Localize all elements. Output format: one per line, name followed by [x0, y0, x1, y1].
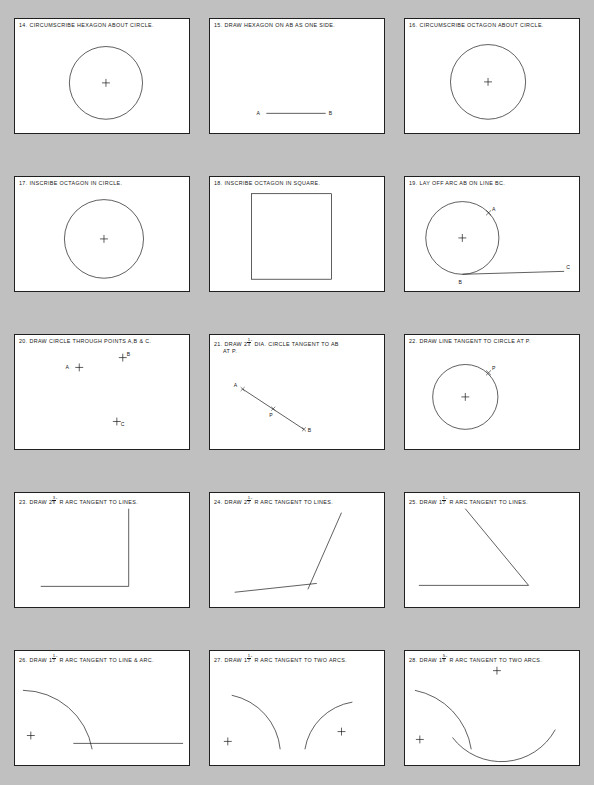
- exercise-panel-22[interactable]: 22. DRAW LINE TANGENT TO CIRCLE AT P. P: [404, 334, 580, 450]
- exercise-panel-18[interactable]: 18. INSCRIBE OCTAGON IN SQUARE.: [209, 176, 385, 292]
- label-a-20: A: [65, 364, 69, 370]
- exercise-panel-15[interactable]: 15. DRAW HEXAGON ON AB AS ONE SIDE. A B: [209, 18, 385, 134]
- figure-two-arcs-facing-27: [210, 651, 384, 765]
- label-c-20: C: [121, 421, 125, 427]
- exercise-panel-20[interactable]: 20. DRAW CIRCLE THROUGH POINTS A,B & C. …: [14, 334, 190, 450]
- figure-two-arcs-offset-28: [405, 651, 579, 765]
- figure-obtuse-angle-lines-25: [405, 493, 579, 607]
- exercise-panel-27[interactable]: 27. DRAW 112" R ARC TANGENT TO TWO ARCS.: [209, 650, 385, 766]
- figure-circle-with-center-17: [15, 177, 189, 291]
- figure-circle-with-center-14: [15, 19, 189, 133]
- exercise-grid: 14. CIRCUMSCRIBE HEXAGON ABOUT CIRCLE. 1…: [0, 0, 594, 785]
- label-c-19: C: [566, 264, 570, 270]
- figure-acute-angle-lines-24: [210, 493, 384, 607]
- label-a-19: A: [492, 206, 496, 212]
- figure-square-18: [210, 177, 384, 291]
- exercise-panel-28[interactable]: 28. DRAW 158" R ARC TANGENT TO TWO ARCS.: [404, 650, 580, 766]
- figure-right-angle-lines-23: [15, 493, 189, 607]
- worksheet-sheet: 14. CIRCUMSCRIBE HEXAGON ABOUT CIRCLE. 1…: [0, 0, 594, 785]
- label-b-15: B: [329, 110, 333, 116]
- label-a-15: A: [256, 110, 260, 116]
- label-b-21: B: [308, 427, 312, 433]
- exercise-panel-21[interactable]: 21. DRAW 214" DIA. CIRCLE TANGENT TO AB …: [209, 334, 385, 450]
- figure-circle-point-p-22: P: [405, 335, 579, 449]
- exercise-panel-23[interactable]: 23. DRAW 238" R ARC TANGENT TO LINES.: [14, 492, 190, 608]
- exercise-panel-17[interactable]: 17. INSCRIBE OCTAGON IN CIRCLE.: [14, 176, 190, 292]
- exercise-panel-24[interactable]: 24. DRAW 212" R ARC TANGENT TO LINES.: [209, 492, 385, 608]
- figure-circle-with-center-16: [405, 19, 579, 133]
- exercise-panel-26[interactable]: 26. DRAW 112" R ARC TANGENT TO LINE & AR…: [14, 650, 190, 766]
- label-p-21: P: [269, 412, 273, 418]
- figure-circle-tangent-line-19: A B C: [405, 177, 579, 291]
- exercise-panel-16[interactable]: 16. CIRCUMSCRIBE OCTAGON ABOUT CIRCLE.: [404, 18, 580, 134]
- figure-oblique-segment-21: A P B: [210, 335, 384, 449]
- label-p-22: P: [492, 365, 496, 371]
- figure-arc-and-line-26: [15, 651, 189, 765]
- label-a-21: A: [234, 382, 238, 388]
- exercise-panel-25[interactable]: 25. DRAW 112" R ARC TANGENT TO LINES.: [404, 492, 580, 608]
- exercise-panel-19[interactable]: 19. LAY OFF ARC AB ON LINE BC. A B C: [404, 176, 580, 292]
- figure-segment-ab-15: A B: [210, 19, 384, 133]
- label-b-20: B: [127, 351, 131, 357]
- exercise-panel-14[interactable]: 14. CIRCUMSCRIBE HEXAGON ABOUT CIRCLE.: [14, 18, 190, 134]
- figure-three-points-20: A B C: [15, 335, 189, 449]
- label-b-19: B: [458, 279, 462, 285]
